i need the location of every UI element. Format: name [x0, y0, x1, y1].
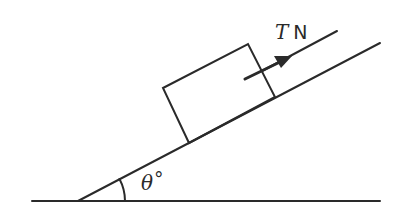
angle-symbol: θ	[141, 171, 153, 195]
angle-arc	[120, 179, 126, 201]
inclined-plane-diagram: TN θ°	[0, 0, 404, 210]
force-symbol: T	[275, 20, 290, 44]
force-arrow-shaft	[245, 62, 280, 79]
force-label: TN	[275, 20, 308, 44]
angle-unit: °	[154, 168, 164, 190]
angle-label: θ°	[141, 168, 164, 195]
force-arrow	[245, 56, 292, 79]
force-unit: N	[293, 21, 307, 43]
